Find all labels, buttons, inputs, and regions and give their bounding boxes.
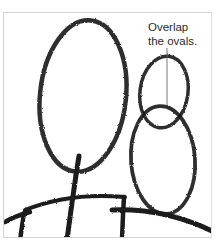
- callout-label: Overlap the ovals.: [148, 20, 197, 48]
- far-left-line: [5, 212, 30, 240]
- left-shoulder-arc: [25, 196, 125, 210]
- left-arm-line: [122, 197, 124, 240]
- large-oval: [32, 16, 133, 176]
- callout-line-2: the ovals.: [148, 34, 197, 48]
- callout-line-1: Overlap: [148, 20, 197, 34]
- right-ground-line: [112, 210, 214, 232]
- body-oval: [127, 104, 198, 216]
